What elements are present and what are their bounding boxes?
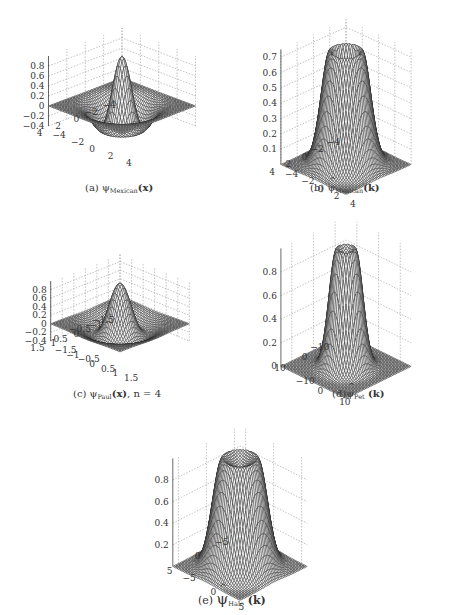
y-tick-label: 0 <box>302 352 308 362</box>
z-tick-label: 0.6 <box>263 291 278 301</box>
surface-plot-c: −0.4−0.200.20.40.60.8−1.5−1−0.500.511.5−… <box>0 205 230 385</box>
z-tick-label: 0.1 <box>263 144 277 154</box>
z-tick-label: 0.8 <box>30 61 45 71</box>
y-tick-label: −4 <box>327 137 341 147</box>
z-tick-label: 0.2 <box>263 129 277 139</box>
surface-plot-b: 0.10.20.30.40.50.60.7−4−2024−4−2024 <box>228 0 457 180</box>
z-tick-label: 0 <box>39 101 45 111</box>
z-tick-label: 0.4 <box>32 302 47 312</box>
caption-a: (a) ψMexican(x) <box>85 182 153 195</box>
z-tick-label: 0.2 <box>263 338 277 348</box>
z-tick-label: 0.2 <box>30 91 44 101</box>
x-tick-label: −10 <box>296 376 315 386</box>
z-tick-label: 0.5 <box>263 83 278 93</box>
y-tick-label: 0 <box>302 152 308 162</box>
y-tick-label: 0 <box>195 551 201 561</box>
caption-e: (e) ψ^Halo (k) <box>198 590 266 608</box>
x-tick-label: 2 <box>108 151 114 161</box>
x-tick-label: −5 <box>182 573 196 583</box>
y-tick-label: 0 <box>74 114 80 124</box>
z-tick-label: 0.2 <box>154 540 168 550</box>
panel-a-mexican-spatial: −0.4−0.200.20.40.60.8−4−2024−4−2024 <box>0 0 230 180</box>
panel-c-paul-spatial: −0.4−0.200.20.40.60.8−1.5−1−0.500.511.5−… <box>0 205 230 385</box>
y-tick-label: −5 <box>215 537 229 547</box>
x-tick-label: −2 <box>71 137 84 147</box>
z-tick-label: 0 <box>41 319 47 329</box>
z-tick-label: 0.8 <box>32 285 47 295</box>
surface-mesh <box>51 283 190 352</box>
z-tick-label: 0.8 <box>154 475 169 485</box>
caption-c: (c) ψPaul(x), n = 4 <box>73 388 161 401</box>
z-tick-label: 0.6 <box>32 293 47 303</box>
z-tick-label: 0.6 <box>263 68 278 78</box>
x-tick-label: 1 <box>112 368 118 378</box>
z-tick-label: 0.7 <box>263 52 278 62</box>
x-tick-label: −4 <box>53 130 67 140</box>
x-tick-label: 1.5 <box>124 373 139 383</box>
psi-hat-symbol: ψ^ <box>217 590 229 608</box>
psi-hat-symbol: ψ^ <box>327 182 335 193</box>
x-tick-label: 0 <box>89 144 95 154</box>
y-tick-label: −2 <box>310 144 323 154</box>
psi-hat-symbol: ψ^ <box>346 388 354 399</box>
surface-plot-d: 00.20.40.60.8−10010−10010 <box>228 205 457 385</box>
z-tick-label: 0.6 <box>154 497 169 507</box>
z-tick-label: 0.4 <box>154 518 169 528</box>
x-tick-label: 4 <box>126 158 132 168</box>
z-tick-label: 0.8 <box>263 267 278 277</box>
y-tick-label: 4 <box>37 128 43 138</box>
y-tick-label: 4 <box>269 167 275 177</box>
surface-mesh <box>281 44 411 195</box>
z-tick-label: 0.3 <box>263 114 278 124</box>
z-tick-label: 0.6 <box>30 71 45 81</box>
surface-mesh <box>49 56 196 137</box>
y-tick-label: −1 <box>89 320 102 330</box>
z-tick-label: −0.2 <box>25 327 47 337</box>
caption-d: (d)ψ^Pet (k) <box>332 388 384 401</box>
z-tick-label: 0.2 <box>32 310 46 320</box>
y-tick-label: −4 <box>103 100 117 110</box>
surface-plot-e: 0.20.40.60.8−505−505 <box>100 410 360 580</box>
panel-b-mexican-fourier: 0.10.20.30.40.50.60.7−4−2024−4−2024 <box>228 0 457 180</box>
x-tick-label: −4 <box>285 169 299 179</box>
z-tick-label: 0.4 <box>30 81 45 91</box>
caption-b: (b) ψ^Mexican(k) <box>310 182 380 195</box>
psi-symbol: ψ <box>102 182 110 193</box>
y-tick-label: 2 <box>285 159 291 169</box>
x-tick-label: 0 <box>89 359 95 369</box>
z-tick-label: −0.2 <box>23 111 45 121</box>
panel-d-pet-fourier: 00.20.40.60.8−10010−10010 <box>228 205 457 385</box>
z-tick-label: 0.4 <box>263 314 278 324</box>
surface-plot-a: −0.4−0.200.20.40.60.8−4−2024−4−2024 <box>0 0 230 180</box>
y-tick-label: −10 <box>310 342 329 352</box>
y-tick-label: 10 <box>274 363 286 373</box>
z-tick-label: 0.4 <box>263 98 278 108</box>
y-tick-label: 5 <box>167 566 173 576</box>
x-tick-label: 0 <box>317 386 323 396</box>
y-tick-label: −2 <box>84 107 97 117</box>
y-tick-label: −0.5 <box>69 324 91 334</box>
y-tick-label: 0 <box>74 329 80 339</box>
y-tick-label: 1.5 <box>30 343 45 353</box>
panel-e-halo-fourier: 0.20.40.60.8−505−505 <box>100 410 360 580</box>
